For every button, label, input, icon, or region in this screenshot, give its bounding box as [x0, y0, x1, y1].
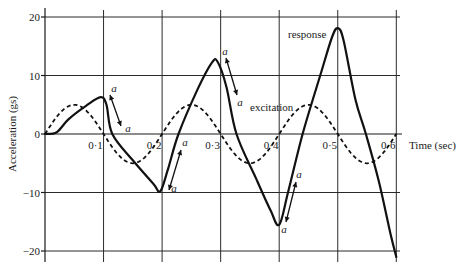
- a-arrow: aa: [109, 82, 131, 134]
- arrow-shaft: [286, 182, 296, 222]
- y-tick-label: 20: [29, 11, 41, 23]
- a-arrow: aa: [168, 136, 188, 194]
- y-tick-label: 0: [35, 128, 41, 140]
- y-tick-label: −20: [23, 245, 41, 257]
- arrowhead-icon: [292, 182, 297, 187]
- response-label: response: [288, 28, 327, 40]
- acceleration-chart: 20100−10−20 0·10·20·30·40·50·6 aaaaaaaa …: [0, 0, 464, 268]
- a-label: a: [222, 45, 228, 57]
- x-tick-label: 0·3: [205, 139, 220, 151]
- a-label: a: [296, 168, 302, 180]
- a-label: a: [281, 223, 287, 235]
- a-label: a: [171, 182, 177, 194]
- a-label: a: [125, 122, 131, 134]
- x-tick-label: 0·1: [88, 139, 103, 151]
- x-axis-label: Time (sec): [409, 139, 456, 152]
- a-arrow: aa: [222, 45, 243, 108]
- y-tick-labels: 20100−10−20: [23, 11, 41, 257]
- y-tick-label: 10: [29, 70, 41, 82]
- y-tick-label: −10: [23, 187, 41, 199]
- a-label: a: [111, 82, 117, 94]
- y-axis-label: Acceleration (gs): [6, 96, 19, 172]
- x-tick-label: 0·5: [322, 139, 337, 151]
- a-label: a: [182, 136, 188, 148]
- excitation-label: excitation: [250, 101, 294, 113]
- a-label: a: [237, 96, 243, 108]
- arrowhead-icon: [285, 217, 290, 222]
